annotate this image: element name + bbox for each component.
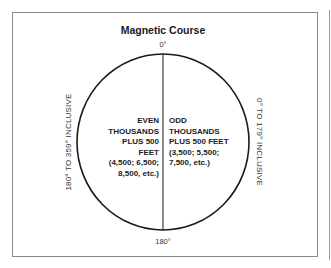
- rule-line: (3,500; 5,500;: [169, 148, 229, 159]
- rule-line: ODD: [169, 116, 229, 127]
- rule-line: PLUS 500 FEET: [169, 137, 229, 148]
- odd-altitude-rule: ODD THOUSANDS PLUS 500 FEET (3,500; 5,50…: [169, 116, 229, 169]
- even-altitude-rule: EVEN THOUSANDS PLUS 500 FEET (4,500; 6,5…: [108, 116, 159, 179]
- rule-line: THOUSANDS: [169, 127, 229, 138]
- rule-line: EVEN: [108, 116, 159, 127]
- west-range-label: 180° TO 359° INCLUSIVE: [64, 93, 73, 190]
- rule-line: THOUSANDS: [108, 127, 159, 138]
- rule-line: (4,500; 6,500;: [108, 158, 159, 169]
- rule-line: 7,500, etc.): [169, 158, 229, 169]
- course-circle-graphic: [0, 0, 331, 268]
- east-range-label: 0° TO 179° INCLUSIVE: [255, 98, 264, 186]
- rule-line: 8,500, etc.): [108, 169, 159, 180]
- rule-line: PLUS 500: [108, 137, 159, 148]
- rule-line: FEET: [108, 148, 159, 159]
